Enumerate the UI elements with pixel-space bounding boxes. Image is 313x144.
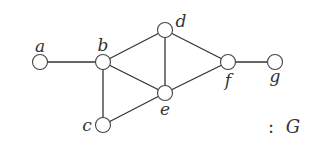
node-a [33, 55, 48, 70]
caption-graph-name: G [286, 116, 300, 137]
node-label-c: c [82, 115, 92, 135]
node-b [96, 55, 111, 70]
node-c [96, 118, 111, 133]
node-f [221, 55, 236, 70]
node-label-g: g [270, 66, 281, 86]
node-label-e: e [160, 99, 170, 119]
graph-edges [40, 30, 275, 125]
node-d [158, 23, 173, 38]
edge-b-e [103, 62, 165, 93]
edge-b-d [103, 30, 165, 62]
node-label-b: b [98, 35, 109, 55]
edge-c-e [103, 93, 165, 125]
graph-diagram: abcdefg : G [0, 0, 313, 144]
graph-caption: : G [268, 116, 300, 137]
node-label-a: a [35, 36, 45, 56]
node-label-f: f [223, 70, 234, 90]
caption-colon: : [268, 116, 274, 137]
edge-e-f [165, 62, 228, 93]
edge-d-f [165, 30, 228, 62]
graph-nodes [33, 23, 283, 133]
node-label-d: d [176, 11, 187, 31]
